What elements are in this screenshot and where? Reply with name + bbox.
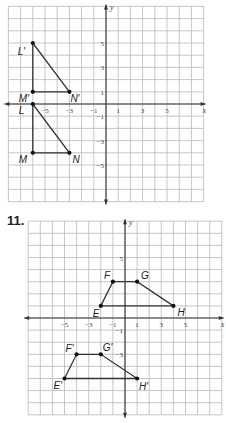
vertex-label: F bbox=[104, 270, 111, 281]
vertex-label: E′ bbox=[54, 380, 64, 391]
vertex-point bbox=[111, 280, 115, 284]
y-tick-label: −1 bbox=[116, 327, 124, 335]
coordinate-graph-2: xy−5−3−11355−1−3EFGHE′F′G′H′ bbox=[0, 0, 226, 423]
y-axis-label: y bbox=[128, 218, 133, 227]
y-axis-down-arrow-icon bbox=[123, 413, 127, 418]
quadrilateral-EFGH: EFGH bbox=[93, 270, 186, 319]
x-axis-left-arrow-icon bbox=[24, 316, 29, 320]
x-axis-label: x bbox=[220, 320, 225, 329]
x-tick-label: 1 bbox=[135, 321, 139, 329]
y-tick-label: −3 bbox=[116, 351, 124, 359]
quadrilateral-EFGH-prime: E′F′G′H′ bbox=[54, 342, 150, 391]
vertex-point bbox=[135, 280, 139, 284]
vertex-label: G′ bbox=[103, 342, 114, 353]
vertex-point bbox=[171, 304, 175, 308]
vertex-point bbox=[62, 376, 66, 380]
y-tick-label: 5 bbox=[120, 255, 124, 263]
vertex-label: H′ bbox=[139, 381, 149, 392]
vertex-point bbox=[75, 352, 79, 356]
vertex-label: H bbox=[177, 307, 185, 318]
vertex-label: E bbox=[93, 308, 100, 319]
x-tick-label: 3 bbox=[160, 321, 164, 329]
x-tick-label: −3 bbox=[85, 321, 93, 329]
x-tick-label: −5 bbox=[61, 321, 69, 329]
vertex-label: F′ bbox=[66, 343, 75, 354]
vertex-label: G bbox=[141, 270, 149, 281]
x-tick-label: 5 bbox=[184, 321, 188, 329]
y-axis-up-arrow-icon bbox=[123, 219, 127, 224]
